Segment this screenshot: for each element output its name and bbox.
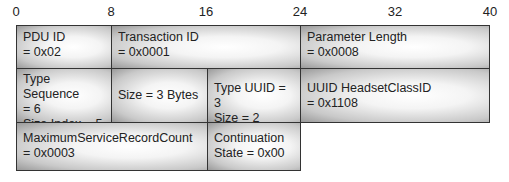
field-value: State = 0x00 [214, 146, 294, 161]
bit-tick-40: 40 [483, 4, 497, 19]
field-value: = 0x0001 [118, 45, 294, 60]
bit-tick-16: 16 [199, 4, 213, 19]
field-value: = 0x1108 [307, 96, 483, 111]
field-type-sequence: Type Sequence = 6 Size Index = 5 [16, 68, 112, 123]
field-parameter-length: Parameter Length = 0x0008 [300, 25, 490, 69]
bit-tick-8: 8 [107, 4, 114, 19]
field-name: Continuation [214, 131, 294, 146]
field-continuation-state: Continuation State = 0x00 [207, 122, 301, 171]
field-name: Parameter Length [307, 30, 483, 45]
field-sequence-size: Size = 3 Bytes [111, 68, 208, 123]
field-name: Type Sequence [23, 72, 105, 102]
field-value: = 0x0003 [23, 146, 201, 161]
field-name: Type UUID = 3 [214, 81, 294, 111]
field-value: = 0x0008 [307, 45, 483, 60]
field-maximum-service-record-count: MaximumServiceRecordCount = 0x0003 [16, 122, 208, 171]
bit-tick-24: 24 [293, 4, 307, 19]
field-name: Transaction ID [118, 30, 294, 45]
field-pdu-id: PDU ID = 0x02 [16, 25, 112, 69]
field-type-uuid: Type UUID = 3 Size = 2 Bytes [207, 68, 301, 123]
field-name: MaximumServiceRecordCount [23, 131, 201, 146]
bit-tick-0: 0 [12, 4, 19, 19]
field-name: PDU ID [23, 30, 105, 45]
bit-tick-32: 32 [388, 4, 402, 19]
field-value: = 0x02 [23, 45, 105, 60]
field-uuid-headset-class-id: UUID HeadsetClassID = 0x1108 [300, 68, 490, 123]
field-value: = 6 [23, 102, 105, 117]
field-transaction-id: Transaction ID = 0x0001 [111, 25, 301, 69]
field-name: Size = 3 Bytes [118, 88, 198, 103]
field-name: UUID HeadsetClassID [307, 81, 483, 96]
